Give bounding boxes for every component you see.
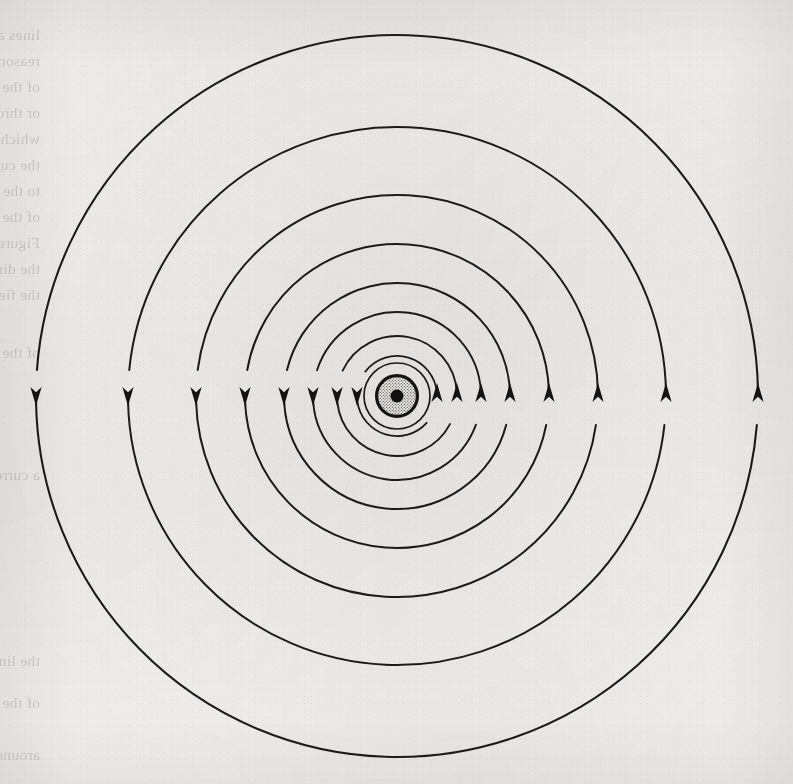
arrowhead-down — [307, 387, 318, 406]
arrowhead-up — [475, 383, 486, 402]
arrowhead-down — [278, 387, 289, 406]
arrowhead-up — [504, 383, 515, 402]
arrowhead-down — [190, 387, 201, 406]
arrowhead-up — [431, 383, 442, 402]
conductor-group — [377, 376, 418, 417]
arrowhead-up — [752, 383, 763, 402]
arrowhead-up — [592, 383, 603, 402]
arrowhead-up — [660, 383, 671, 402]
arrowhead-down — [239, 387, 250, 406]
magnetic-field-diagram — [0, 0, 793, 784]
conductor-center-dot — [391, 390, 404, 403]
arrowhead-down — [30, 387, 41, 406]
arrowhead-up — [543, 383, 554, 402]
arrowhead-down — [351, 387, 362, 406]
figure-page: lines and there is a field to bereason t… — [0, 0, 793, 784]
arrowhead-down — [122, 387, 133, 406]
arrowhead-up — [451, 383, 462, 402]
arrowhead-down — [331, 387, 342, 406]
